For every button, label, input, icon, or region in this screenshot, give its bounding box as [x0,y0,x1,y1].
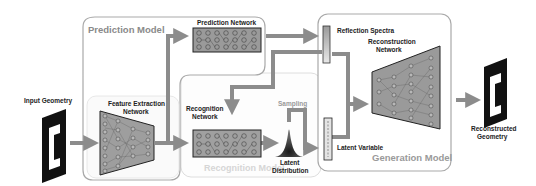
generation-model-label: Generation Model [372,152,452,163]
diagram-svg [0,0,536,186]
latent-distribution-label-1: Latent [280,159,300,167]
diagram-canvas: Prediction Model Recognition Model Gener… [0,0,536,186]
reconstruction-network-label-2: Network [376,46,402,54]
reconstruction-network-label-1: Reconstruction [368,38,416,46]
input-geometry-label: Input Geometry [24,97,72,105]
latent-variable-bar [324,118,332,160]
reconstructed-geometry-label-1: Reconstructed [471,125,517,133]
input-geometry-icon [42,109,66,183]
prediction-network-label: Prediction Network [197,19,256,27]
sampling-label: Sampling [278,100,307,108]
reconstructed-geometry-label-2: Geometry [477,133,507,141]
recognition-network-graphic [193,130,261,157]
recognition-network-label-2: Network [192,113,218,121]
reconstructed-geometry-icon [484,58,507,128]
prediction-model-label: Prediction Model [88,24,165,35]
recognition-network-label-1: Recognition [186,105,224,113]
reflection-spectra-label: Reflection Spectra [337,27,394,35]
reflection-spectra-bar [323,26,330,63]
latent-variable-label: Latent Variable [337,144,383,152]
feature-extraction-label-1: Feature Extraction [108,100,165,108]
feature-extraction-label-2: Network [123,108,149,116]
latent-distribution-label-2: Distribution [272,167,308,175]
prediction-network-graphic [193,28,261,52]
